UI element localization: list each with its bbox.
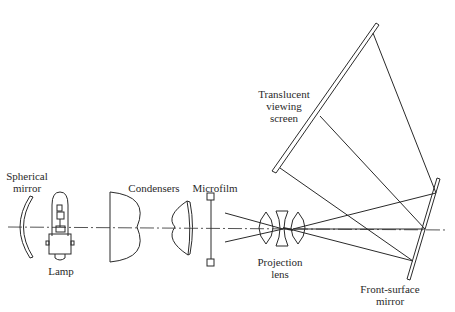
label-line: Projection	[250, 256, 310, 268]
label-line: screen	[254, 112, 314, 124]
label-microfilm: Microfilm	[190, 182, 240, 194]
label-line: lens	[250, 268, 310, 280]
label-line: mirror	[2, 182, 52, 194]
lamp	[46, 192, 74, 260]
label-line: viewing	[254, 100, 314, 112]
label-spherical-mirror: Spherical mirror	[2, 170, 52, 194]
label-line: Spherical	[2, 170, 52, 182]
label-translucent-viewing-screen: Translucent viewing screen	[254, 88, 314, 124]
microfilm	[207, 193, 214, 266]
label-projection-lens: Projection lens	[250, 256, 310, 280]
condenser-lens-1	[110, 192, 140, 262]
label-front-surface-mirror: Front-surface mirror	[350, 283, 430, 307]
label-condensers: Condensers	[124, 182, 184, 194]
label-line: mirror	[350, 295, 430, 307]
label-lamp: Lamp	[44, 265, 78, 277]
label-line: Translucent	[254, 88, 314, 100]
label-line: Front-surface	[350, 283, 430, 295]
